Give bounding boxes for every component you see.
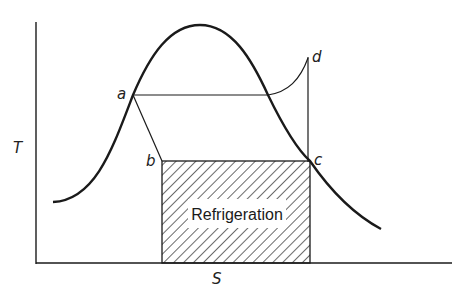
- point-c-label: c: [314, 151, 323, 169]
- point-d-label: d: [312, 48, 322, 66]
- y-axis-label: T: [13, 139, 24, 157]
- point-a-label: a: [117, 85, 126, 103]
- superheat-curve: [268, 58, 308, 95]
- x-axis-label: S: [212, 270, 222, 288]
- refrigeration-label: Refrigeration: [191, 206, 283, 223]
- point-b-label: b: [146, 152, 156, 170]
- ts-diagram: Refrigeration a b c d T S: [0, 0, 462, 299]
